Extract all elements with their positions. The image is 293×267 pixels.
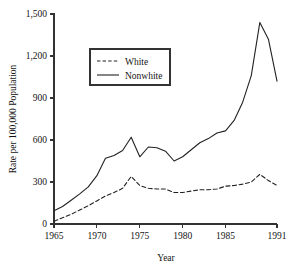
- y-tick-label: 1,500: [26, 9, 48, 19]
- x-axis: 196519701975198019851991 Year: [45, 224, 287, 263]
- y-axis-ticks: [50, 14, 54, 224]
- y-tick-label: 1,200: [26, 51, 48, 61]
- y-tick-label: 0: [42, 219, 47, 229]
- legend-label-white: White: [125, 57, 148, 67]
- chart-figure: 03006009001,2001,500 Rate per 100,000 Po…: [0, 0, 293, 267]
- x-tick-label: 1980: [173, 231, 192, 241]
- y-tick-label: 300: [33, 177, 48, 187]
- series-line-white: [54, 174, 277, 221]
- x-axis-tick-labels: 196519701975198019851991: [45, 231, 287, 241]
- x-axis-title: Year: [157, 253, 175, 263]
- y-tick-label: 900: [33, 93, 48, 103]
- x-tick-label: 1970: [87, 231, 106, 241]
- y-tick-label: 600: [33, 135, 48, 145]
- line-chart: 03006009001,2001,500 Rate per 100,000 Po…: [0, 0, 293, 267]
- x-tick-label: 1965: [45, 231, 64, 241]
- x-tick-label: 1975: [130, 231, 149, 241]
- legend-label-nonwhite: Nonwhite: [125, 71, 162, 81]
- x-axis-ticks: [54, 224, 277, 228]
- y-axis: 03006009001,2001,500 Rate per 100,000 Po…: [8, 9, 54, 229]
- x-tick-label: 1991: [268, 231, 287, 241]
- legend: White Nonwhite: [90, 49, 170, 85]
- y-axis-title: Rate per 100,000 Population: [8, 64, 18, 173]
- x-tick-label: 1985: [216, 231, 235, 241]
- y-axis-tick-labels: 03006009001,2001,500: [26, 9, 48, 229]
